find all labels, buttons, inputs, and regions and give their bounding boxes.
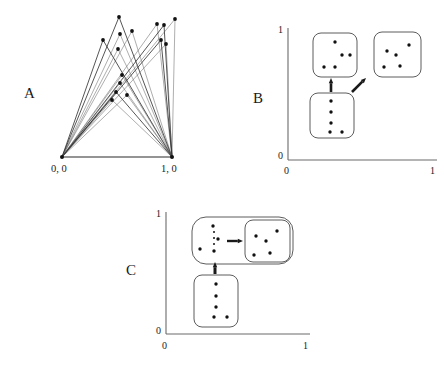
cluster-dot xyxy=(252,253,255,256)
ellipsis-dot xyxy=(213,231,215,233)
cluster-dot xyxy=(212,249,215,252)
cluster-dot xyxy=(198,247,201,250)
panel-c-outer-dots xyxy=(198,224,219,252)
panel-c-bottom-cluster-dots xyxy=(212,282,228,318)
figure-root: A 0, 0 1, 0 B 1 0 0 1 C 1 0 0 1 xyxy=(0,0,444,367)
panel-c-merge-arrow xyxy=(227,239,243,243)
panel-c-xtick-right: 1 xyxy=(303,340,308,351)
panel-c-up-arrow-head xyxy=(213,262,217,267)
cluster-dot xyxy=(254,234,257,237)
panel-c-merged-cluster-box xyxy=(192,217,293,264)
panel-c-ytick-bottom: 0 xyxy=(156,325,161,336)
cluster-dot xyxy=(216,237,219,240)
ellipsis-dot xyxy=(213,237,215,239)
cluster-dot xyxy=(214,294,217,297)
panel-c-ellipsis xyxy=(213,231,215,245)
cluster-dot xyxy=(211,224,214,227)
panel-c-merge-arrow-head xyxy=(238,239,243,243)
cluster-dot xyxy=(214,305,217,308)
cluster-dot xyxy=(214,282,217,285)
panel-c-xtick-left: 0 xyxy=(162,340,167,351)
cluster-dot xyxy=(268,251,271,254)
cluster-dot xyxy=(264,239,267,242)
panel-c-result-cluster-box-dots xyxy=(252,229,278,256)
cluster-dot xyxy=(225,315,228,318)
cluster-dot xyxy=(212,315,215,318)
cluster-dot xyxy=(275,229,278,232)
ellipsis-dot xyxy=(213,243,215,245)
panel-c-plot xyxy=(0,0,444,367)
panel-c-ytick-top: 1 xyxy=(156,208,161,219)
